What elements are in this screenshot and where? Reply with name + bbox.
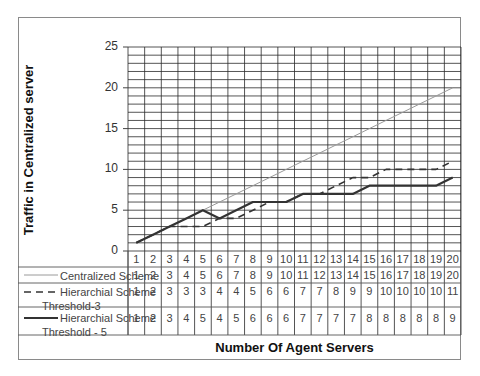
- centralized-cell: 17: [394, 269, 411, 281]
- category-header-cell: 9: [261, 253, 278, 265]
- threshold3-cell: 7: [311, 285, 328, 297]
- category-header-cell: 13: [328, 253, 345, 265]
- threshold3-cell: 4: [228, 285, 245, 297]
- category-header-cell: 12: [311, 253, 328, 265]
- centralized-cell: 14: [344, 269, 361, 281]
- threshold3-cell: 4: [211, 285, 228, 297]
- threshold3-cell: 10: [411, 285, 428, 297]
- threshold3-cell: 10: [394, 285, 411, 297]
- category-header-cell: 16: [378, 253, 395, 265]
- category-header-cell: 3: [161, 253, 178, 265]
- category-header-cell: 5: [195, 253, 212, 265]
- y-tick-label: 20: [88, 80, 118, 94]
- threshold5-cell: 6: [245, 312, 262, 324]
- threshold3-cell: 3: [178, 285, 195, 297]
- threshold3-cell: 10: [428, 285, 445, 297]
- legend-threshold5-line1: Hierarchial Scheme: [60, 311, 156, 325]
- legend-threshold5-line2: Threshold - 5: [42, 325, 107, 339]
- centralized-cell: 3: [161, 269, 178, 281]
- category-header-cell: 8: [245, 253, 262, 265]
- centralized-cell: 9: [261, 269, 278, 281]
- threshold3-cell: 11: [444, 285, 461, 297]
- centralized-cell: 12: [311, 269, 328, 281]
- threshold5-cell: 8: [361, 312, 378, 324]
- threshold5-cell: 8: [428, 312, 445, 324]
- threshold5-cell: 5: [195, 312, 212, 324]
- threshold5-cell: 4: [211, 312, 228, 324]
- centralized-cell: 20: [444, 269, 461, 281]
- threshold5-cell: 8: [411, 312, 428, 324]
- threshold3-cell: 3: [161, 285, 178, 297]
- threshold5-cell: 9: [444, 312, 461, 324]
- category-header-cell: 11: [295, 253, 312, 265]
- y-tick-label: 0: [88, 243, 118, 257]
- y-tick-label: 10: [88, 161, 118, 175]
- y-tick-label: 5: [88, 202, 118, 216]
- threshold5-cell: 8: [394, 312, 411, 324]
- threshold3-cell: 9: [361, 285, 378, 297]
- threshold3-cell: 7: [295, 285, 312, 297]
- centralized-cell: 10: [278, 269, 295, 281]
- category-header-cell: 6: [211, 253, 228, 265]
- legend-centralized: Centralized Scheme: [60, 269, 159, 283]
- centralized-cell: 18: [411, 269, 428, 281]
- threshold3-cell: 3: [195, 285, 212, 297]
- threshold5-cell: 6: [261, 312, 278, 324]
- category-header-cell: 10: [278, 253, 295, 265]
- category-header-cell: 17: [394, 253, 411, 265]
- threshold5-cell: 3: [161, 312, 178, 324]
- threshold5-cell: 8: [378, 312, 395, 324]
- centralized-cell: 4: [178, 269, 195, 281]
- y-tick-label: 25: [88, 39, 118, 53]
- threshold5-cell: 7: [295, 312, 312, 324]
- category-header-cell: 15: [361, 253, 378, 265]
- centralized-cell: 5: [195, 269, 212, 281]
- threshold3-cell: 6: [261, 285, 278, 297]
- threshold5-cell: 4: [178, 312, 195, 324]
- threshold5-cell: 7: [328, 312, 345, 324]
- threshold3-cell: 6: [278, 285, 295, 297]
- threshold5-cell: 7: [311, 312, 328, 324]
- category-header-cell: 18: [411, 253, 428, 265]
- category-header-cell: 2: [145, 253, 162, 265]
- centralized-cell: 7: [228, 269, 245, 281]
- threshold5-cell: 6: [278, 312, 295, 324]
- category-header-cell: 20: [444, 253, 461, 265]
- x-axis-title: Number Of Agent Servers: [128, 336, 461, 360]
- centralized-cell: 15: [361, 269, 378, 281]
- threshold3-cell: 8: [328, 285, 345, 297]
- category-header-cell: 14: [344, 253, 361, 265]
- centralized-cell: 13: [328, 269, 345, 281]
- category-header-cell: 1: [128, 253, 145, 265]
- centralized-cell: 19: [428, 269, 445, 281]
- threshold3-cell: 10: [378, 285, 395, 297]
- centralized-cell: 16: [378, 269, 395, 281]
- y-tick-label: 15: [88, 121, 118, 135]
- threshold5-cell: 7: [344, 312, 361, 324]
- centralized-cell: 6: [211, 269, 228, 281]
- threshold3-cell: 5: [245, 285, 262, 297]
- threshold5-cell: 5: [228, 312, 245, 324]
- legend-threshold3-line1: Hierarchial Scheme: [60, 285, 156, 299]
- category-header-cell: 4: [178, 253, 195, 265]
- category-header-cell: 7: [228, 253, 245, 265]
- centralized-cell: 8: [245, 269, 262, 281]
- threshold3-cell: 9: [344, 285, 361, 297]
- centralized-cell: 11: [295, 269, 312, 281]
- category-header-cell: 19: [428, 253, 445, 265]
